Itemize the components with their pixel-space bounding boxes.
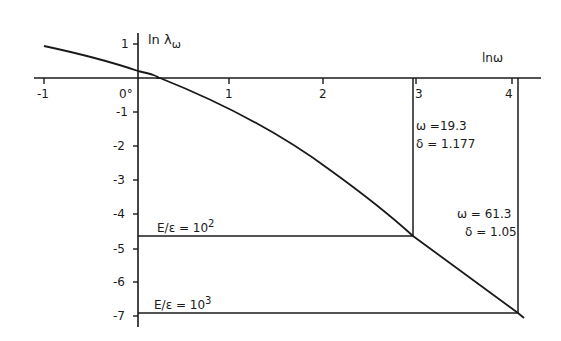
y-tick-label: -6 [113,276,125,288]
y-axis-label: ln λω [148,34,181,51]
ref-label-e-eps-10-3: E/ε = 103 [154,295,211,311]
annotation-omega-61-3: ω = 61.3 [457,208,511,220]
annotation-delta-1-05: δ = 1.05 [465,226,517,238]
annotation-omega-19-3: ω =19.3 [416,120,467,132]
y-tick-label: -5 [113,243,125,255]
x-ticks [44,78,512,84]
y-tick-label: -4 [113,208,125,220]
x-tick-label: 0° [119,88,133,100]
ref-label-exp: 2 [208,218,214,229]
ref-label-base: E/ε = 10 [154,298,205,312]
x-tick-label: 2 [319,88,327,100]
annotation-delta-1-177: δ = 1.177 [416,138,475,150]
ref-label-base: E/ε = 10 [157,221,208,235]
y-tick-label: -1 [116,106,128,118]
y-axis-label-text: ln λ [148,32,172,47]
chart-canvas [0,0,561,341]
x-axis-label: lnω [482,52,503,64]
ref-label-exp: 3 [205,295,211,306]
x-tick-label: -1 [37,88,49,100]
y-tick-label: -7 [113,310,125,322]
x-tick-label: 1 [225,88,233,100]
y-tick-label: -2 [113,140,125,152]
y-axis-label-sub: ω [172,38,181,51]
ref-label-e-eps-10-2: E/ε = 102 [157,218,214,234]
x-tick-label: 3 [415,88,423,100]
x-tick-label: 4 [505,88,513,100]
y-tick-label: -3 [113,174,125,186]
y-tick-label: 1 [121,38,129,50]
